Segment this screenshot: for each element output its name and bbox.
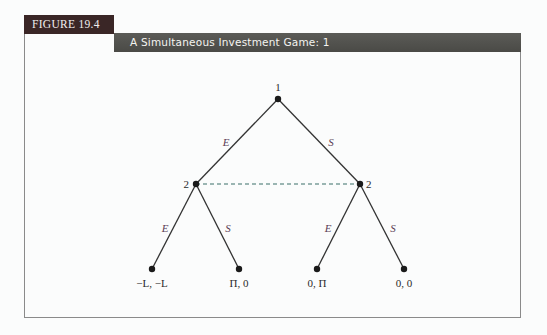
edge-label-root-s: S bbox=[328, 136, 334, 148]
edge-root-left bbox=[196, 99, 278, 184]
root-node bbox=[275, 96, 281, 102]
edge-left-right bbox=[196, 184, 239, 269]
player2-left-node bbox=[193, 181, 199, 187]
edge-label-right-e: E bbox=[324, 222, 332, 234]
edge-left-left bbox=[152, 184, 196, 269]
terminal-node bbox=[236, 266, 242, 272]
payoff-es: Π, 0 bbox=[230, 277, 249, 289]
player2-right-node bbox=[357, 181, 363, 187]
edge-label-left-e: E bbox=[161, 222, 169, 234]
left-player-label: 2 bbox=[184, 178, 190, 190]
terminal-node bbox=[149, 266, 155, 272]
edge-root-right bbox=[278, 99, 360, 184]
root-player-label: 1 bbox=[275, 81, 281, 93]
edge-right-left bbox=[317, 184, 360, 269]
terminal-node bbox=[401, 266, 407, 272]
edge-label-left-s: S bbox=[225, 222, 231, 234]
right-player-label: 2 bbox=[366, 178, 372, 190]
payoff-se: 0, Π bbox=[308, 277, 327, 289]
payoff-ee: −L, −L bbox=[136, 277, 168, 289]
game-tree: 1 2 2 E S E S E S −L, −L Π, 0 0, Π 0, 0 bbox=[0, 0, 547, 335]
edge-label-right-s: S bbox=[390, 222, 396, 234]
terminal-node bbox=[314, 266, 320, 272]
edge-right-right bbox=[360, 184, 404, 269]
edge-label-root-e: E bbox=[222, 136, 230, 148]
payoff-ss: 0, 0 bbox=[396, 277, 413, 289]
